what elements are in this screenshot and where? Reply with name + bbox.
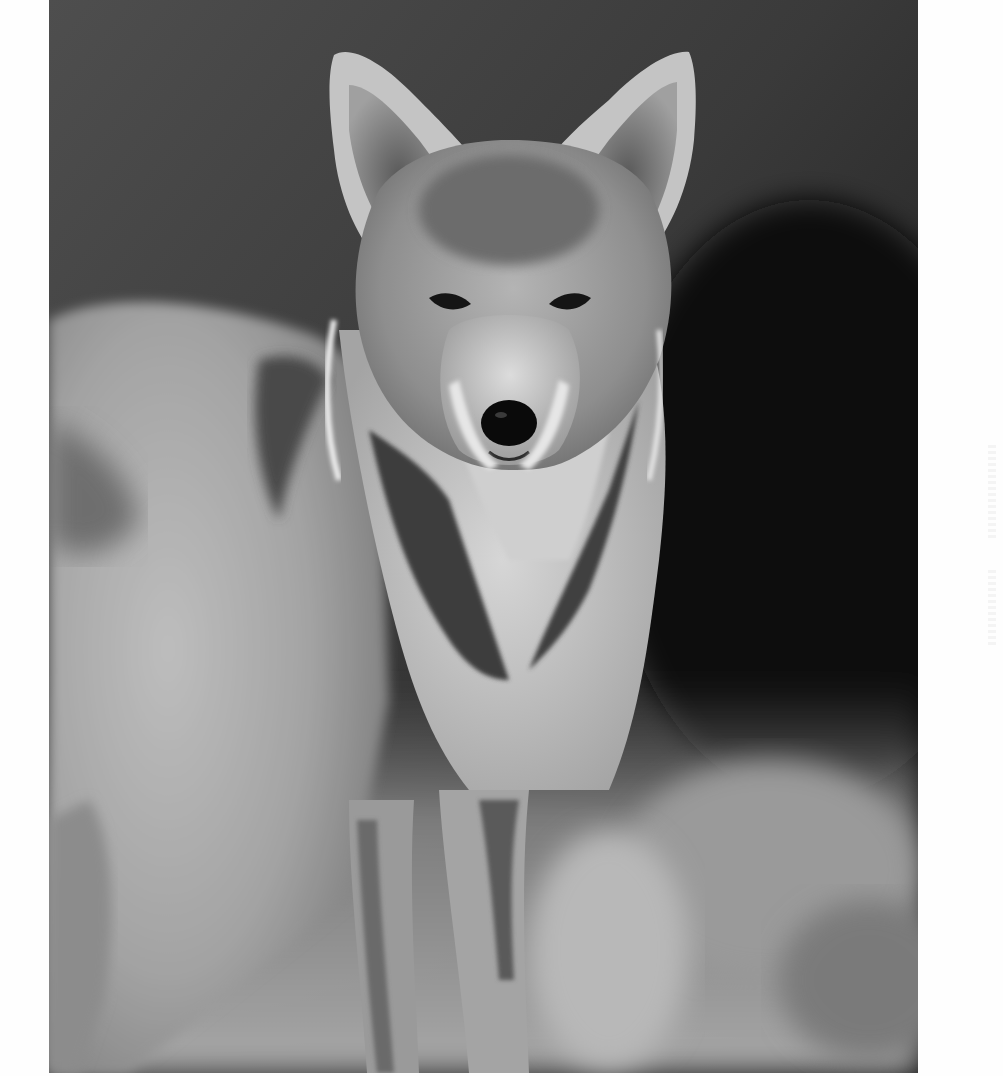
nose: [481, 400, 537, 446]
bleed-through-text: [988, 570, 996, 645]
coyote-illustration: [49, 0, 918, 1073]
coyote-photo: [49, 0, 918, 1073]
page: [0, 0, 1003, 1076]
bleed-through-text: [988, 445, 996, 540]
